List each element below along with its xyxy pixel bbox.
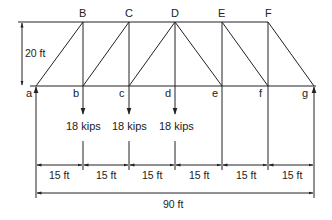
member-bC bbox=[83, 22, 129, 86]
node-label-B: B bbox=[79, 8, 86, 19]
node-label-E: E bbox=[218, 8, 225, 19]
truss-diagram bbox=[0, 0, 332, 220]
member-Ef bbox=[222, 22, 268, 86]
member-Fg bbox=[268, 22, 314, 86]
load-label-c: 18 kips bbox=[112, 121, 147, 132]
node-label-a: a bbox=[26, 88, 32, 99]
node-label-e: e bbox=[212, 88, 218, 99]
panel-dimension-label-6: 15 ft bbox=[282, 170, 302, 181]
panel-dimension-label-1: 15 ft bbox=[49, 170, 69, 181]
node-label-C: C bbox=[125, 8, 133, 19]
node-label-F: F bbox=[265, 8, 272, 19]
node-label-d: d bbox=[165, 88, 171, 99]
node-label-c: c bbox=[119, 88, 125, 99]
load-label-d: 18 kips bbox=[159, 121, 194, 132]
node-label-g: g bbox=[302, 88, 308, 99]
panel-dimension-label-2: 15 ft bbox=[96, 170, 116, 181]
node-label-b: b bbox=[73, 88, 79, 99]
total-dimension-label: 90 ft bbox=[163, 199, 183, 210]
height-dimension-label: 20 ft bbox=[25, 48, 45, 59]
load-label-b: 18 kips bbox=[66, 121, 101, 132]
node-label-f: f bbox=[259, 88, 262, 99]
member-De bbox=[175, 22, 222, 86]
node-label-D: D bbox=[171, 8, 179, 19]
panel-dimension-label-4: 15 ft bbox=[189, 170, 209, 181]
member-cD bbox=[129, 22, 175, 86]
panel-dimension-label-3: 15 ft bbox=[142, 170, 162, 181]
panel-dimension-label-5: 15 ft bbox=[236, 170, 256, 181]
